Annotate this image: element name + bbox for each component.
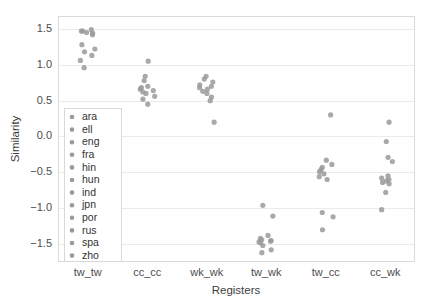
- legend-label-ind: ind: [82, 186, 96, 198]
- data-point: [270, 214, 275, 219]
- data-point: [384, 139, 389, 144]
- y-tick-label: 0.5: [37, 94, 52, 106]
- legend-label-eng: eng: [82, 135, 100, 147]
- data-point: [265, 233, 270, 238]
- data-point: [143, 91, 148, 96]
- data-point: [321, 171, 326, 176]
- legend-key-ell: [70, 127, 75, 132]
- data-point: [383, 190, 388, 195]
- x-tick-label-tw_tw: tw_tw: [74, 266, 102, 278]
- y-tick-label: −1.0: [30, 201, 52, 213]
- y-tick-label: −0.5: [30, 165, 52, 177]
- data-point: [152, 94, 157, 99]
- data-point: [89, 53, 94, 58]
- data-point: [140, 97, 145, 102]
- legend-key-por: [70, 216, 75, 221]
- y-tick-label: −1.5: [30, 237, 52, 249]
- data-point: [82, 49, 87, 54]
- legend-key-hin: [70, 165, 75, 170]
- x-tick-label-tw_cc: tw_cc: [312, 266, 341, 278]
- data-point: [380, 180, 385, 185]
- data-point: [268, 239, 273, 244]
- data-point: [324, 158, 329, 163]
- legend-key-zho: [70, 253, 75, 258]
- data-point: [142, 78, 147, 83]
- data-point: [385, 155, 390, 160]
- legend-key-ara: [70, 115, 75, 120]
- legend-label-hin: hin: [82, 161, 96, 173]
- data-point: [329, 162, 334, 167]
- y-tick-label: 0.0: [37, 129, 52, 141]
- data-point: [260, 203, 265, 208]
- y-axis-title: Similarity: [9, 115, 21, 162]
- y-tick-label: 1.5: [37, 22, 52, 34]
- data-point: [151, 88, 156, 93]
- data-point: [387, 181, 392, 186]
- data-point: [330, 214, 335, 219]
- data-point: [317, 174, 322, 179]
- data-point: [390, 159, 395, 164]
- data-point: [146, 59, 151, 64]
- data-point: [212, 120, 217, 125]
- legend-key-spa: [70, 241, 75, 246]
- x-tick-label-cc_wk: cc_wk: [370, 266, 401, 278]
- legend-label-hun: hun: [82, 173, 100, 185]
- x-tick-label-tw_wk: tw_wk: [251, 266, 282, 278]
- scatter-plot-figure: 1.51.00.50.0−0.5−1.0−1.5 tw_twcc_ccwk_wk…: [0, 0, 432, 308]
- data-point: [145, 84, 150, 89]
- data-point: [145, 102, 150, 107]
- data-point: [143, 74, 148, 79]
- legend-label-zho: zho: [82, 249, 99, 261]
- legend-label-spa: spa: [82, 236, 99, 248]
- legend: araellengfrahinhunindjpnporrusspazho: [65, 109, 122, 262]
- legend-label-ell: ell: [82, 123, 93, 135]
- data-point: [259, 250, 264, 255]
- data-point: [202, 77, 207, 82]
- data-point: [379, 207, 384, 212]
- legend-key-jpn: [70, 203, 75, 208]
- data-point: [320, 210, 325, 215]
- legend-key-hun: [70, 178, 75, 183]
- data-point: [260, 243, 265, 248]
- legend-label-por: por: [82, 211, 98, 223]
- data-point: [92, 46, 97, 51]
- data-point: [269, 247, 274, 252]
- y-tick-label: 1.0: [37, 58, 52, 70]
- legend-key-rus: [70, 228, 75, 233]
- data-point: [325, 177, 330, 182]
- data-point: [320, 227, 325, 232]
- x-tick-label-cc_cc: cc_cc: [133, 266, 162, 278]
- x-tick-label-wk_wk: wk_wk: [189, 266, 224, 278]
- data-point: [82, 65, 87, 70]
- data-point: [80, 28, 85, 33]
- legend-key-fra: [70, 153, 75, 158]
- data-point: [208, 98, 213, 103]
- data-point: [79, 42, 84, 47]
- legend-key-ind: [70, 190, 75, 195]
- legend-label-rus: rus: [82, 224, 97, 236]
- data-point: [379, 175, 384, 180]
- legend-label-fra: fra: [82, 148, 94, 160]
- data-point: [78, 58, 83, 63]
- data-point: [90, 32, 95, 37]
- data-point: [328, 112, 333, 117]
- legend-key-eng: [70, 140, 75, 145]
- legend-label-jpn: jpn: [81, 198, 96, 210]
- similarity-by-register-scatter: 1.51.00.50.0−0.5−1.0−1.5 tw_twcc_ccwk_wk…: [0, 0, 432, 308]
- x-axis-title: Registers: [212, 284, 261, 296]
- data-point: [204, 91, 209, 96]
- legend-label-ara: ara: [82, 110, 97, 122]
- data-point: [386, 120, 391, 125]
